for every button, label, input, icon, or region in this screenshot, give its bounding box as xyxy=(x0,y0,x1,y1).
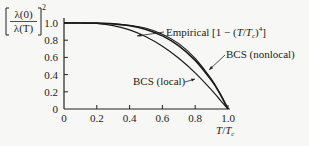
x-tick-labels: 00.20.40.60.81.0 xyxy=(61,112,235,124)
ylabel-numerator: λ(0) xyxy=(14,8,32,21)
label-bcs-local: BCS (local) xyxy=(133,75,186,88)
y-tick-label: 0.2 xyxy=(44,86,58,98)
x-tick-label: 1.0 xyxy=(221,112,235,124)
y-tick-labels: 00.20.40.60.81.0 xyxy=(44,17,58,115)
x-tick-label: 0 xyxy=(61,112,67,124)
y-tick-label: 1.0 xyxy=(44,17,58,29)
x-axis-label: T/Tc xyxy=(216,124,235,138)
annotation-bcs-local: BCS (local) xyxy=(133,75,195,88)
y-tick-label: 0.6 xyxy=(44,51,58,63)
x-tick-label: 0.8 xyxy=(188,112,202,124)
chart: 00.20.40.60.81.0 00.20.40.60.81.0 λ(0) λ… xyxy=(0,0,309,146)
y-tick-label: 0.4 xyxy=(44,69,58,81)
annotation-bcs-nonlocal: BCS (nonlocal) xyxy=(209,48,295,70)
y-tick-label: 0 xyxy=(53,103,59,115)
label-bcs-nonlocal: BCS (nonlocal) xyxy=(226,48,295,61)
y-axis-label: λ(0) λ(T) 2 xyxy=(6,3,46,35)
ylabel-exponent: 2 xyxy=(42,3,46,12)
x-tick-label: 0.2 xyxy=(90,112,104,124)
left-bracket xyxy=(6,8,9,35)
y-tick-label: 0.8 xyxy=(44,34,58,46)
x-tick-label: 0.4 xyxy=(123,112,137,124)
label-empirical: Empirical [1 − (T/Tc)4] xyxy=(166,25,266,40)
right-bracket xyxy=(38,8,41,35)
ylabel-denominator: λ(T) xyxy=(14,22,34,35)
x-tick-label: 0.6 xyxy=(156,112,170,124)
